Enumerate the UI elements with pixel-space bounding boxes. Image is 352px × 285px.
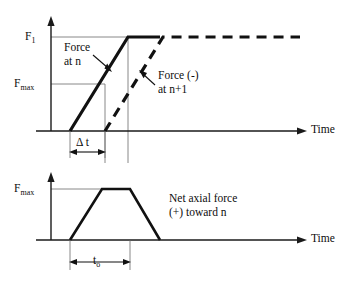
upper-y-axis-arrowhead [47, 16, 54, 26]
curve-net-axial-force [70, 189, 160, 240]
annotation-force-at-n-line2: at n [64, 55, 90, 69]
dim-label-t-o: to [93, 254, 100, 270]
upper-ylabel-f1: F1 [25, 30, 35, 46]
curve-force-at-n-plus-1 [105, 37, 300, 131]
lower-ylabel-fmax-sub: max [20, 188, 34, 197]
lower-ylabel-fmax: Fmax [14, 182, 34, 198]
upper-ylabel-fmax-sub: max [20, 83, 34, 92]
annotation-force-at-n: Force at n [64, 41, 90, 68]
annotation-force-at-n-plus-1-line2: at n+1 [158, 83, 199, 97]
upper-ylabel-fmax: Fmax [14, 77, 34, 93]
lower-x-axis-arrowhead [297, 236, 307, 243]
annotation-force-at-n-line1: Force [64, 41, 90, 55]
dim-label-t-o-sub: o [96, 260, 100, 269]
force-time-diagram: F1 Fmax Force at n Force (-) at n+1 Δ t … [0, 0, 352, 285]
diagram-canvas [0, 0, 352, 285]
annotation-net-axial-force-line2: (+) toward n [169, 206, 237, 220]
annotation-force-at-n-plus-1-line1: Force (-) [158, 69, 199, 83]
dim-label-delta-t: Δ t [76, 136, 89, 150]
annotation-net-axial-force-line1: Net axial force [169, 192, 237, 206]
leader-force-at-n [93, 55, 108, 68]
upper-ylabel-f1-sub: 1 [31, 36, 35, 45]
lower-xlabel-time: Time [311, 232, 335, 246]
upper-x-axis-arrowhead [297, 127, 307, 134]
annotation-net-axial-force: Net axial force (+) toward n [169, 192, 237, 219]
upper-xlabel-time: Time [311, 123, 335, 137]
lower-y-axis-arrowhead [47, 172, 54, 182]
annotation-force-at-n-plus-1: Force (-) at n+1 [158, 69, 199, 96]
